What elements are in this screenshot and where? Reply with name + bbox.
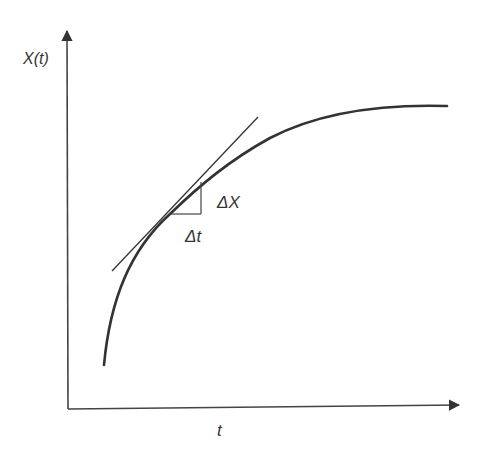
delta-t-label: Δt xyxy=(184,227,202,246)
y-axis-label: X(t) xyxy=(22,50,49,67)
curve-x-of-t xyxy=(104,106,447,365)
x-axis xyxy=(68,405,459,409)
y-axis xyxy=(67,31,68,409)
delta-x-label: ΔX xyxy=(216,193,240,212)
x-axis-label: t xyxy=(217,421,223,440)
derivative-diagram: X(t) t ΔX Δt xyxy=(0,0,478,452)
